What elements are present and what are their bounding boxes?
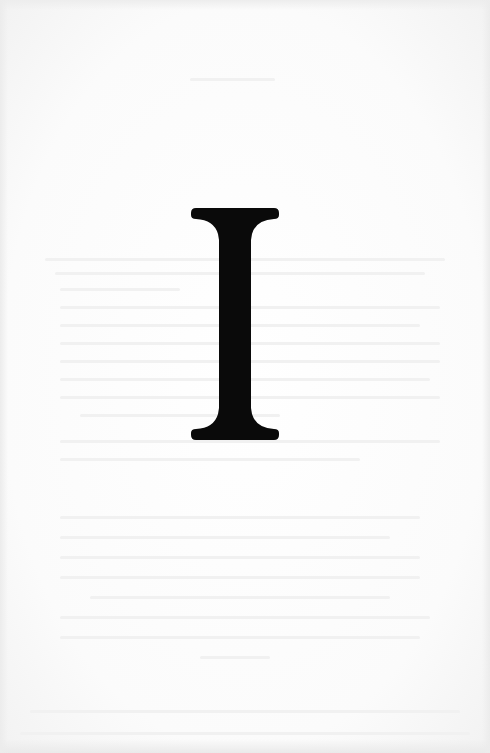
page-edge-left (0, 0, 8, 753)
page-edge-right (482, 0, 490, 753)
numeral-glyph-icon (190, 208, 280, 440)
roman-numeral-i: I (190, 208, 280, 440)
scanned-page: I (0, 0, 490, 753)
page-edge-bottom (0, 739, 490, 753)
page-edge-top (0, 0, 490, 10)
